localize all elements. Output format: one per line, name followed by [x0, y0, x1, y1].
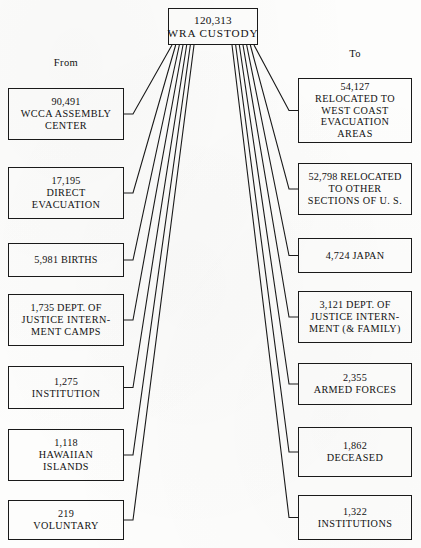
node-label-line: TO OTHER: [328, 183, 381, 195]
node-label-line: WEST COAST: [321, 105, 389, 117]
node-amount: 54,127: [340, 81, 369, 93]
node-amount: 90,491: [51, 96, 80, 108]
root-node: 120,313WRA CUSTODY: [168, 8, 258, 45]
node-label-line: ARMED FORCES: [314, 384, 397, 396]
connector-from: [124, 45, 172, 114]
node-label-line: JUSTICE INTERN-: [22, 314, 111, 326]
node-amount: 1,275: [54, 376, 78, 388]
connector-to: [243, 45, 298, 317]
connector-to: [254, 45, 298, 111]
node-amount: 219: [58, 508, 74, 520]
node-label-line: ISLANDS: [43, 461, 89, 473]
connector-from: [124, 45, 190, 455]
connector-from: [124, 45, 194, 520]
connector-from: [124, 45, 187, 388]
node-label-line: CENTER: [45, 120, 87, 132]
source-node: 5,981 BIRTHS: [8, 243, 124, 277]
node-amount: 1,862: [343, 440, 367, 452]
node-amount: 1,322: [343, 506, 367, 518]
node-amount: 5,981 BIRTHS: [34, 254, 98, 266]
diagram-page: 120,313WRA CUSTODYFromTo90,491WCCA ASSEM…: [0, 0, 421, 548]
connector-from: [124, 45, 183, 320]
node-amount: 52,798 RELOCATED: [308, 171, 401, 183]
node-label-line: HAWAIIAN: [39, 449, 93, 461]
node-amount: 2,355: [343, 372, 367, 384]
source-node: 1,275INSTITUTION: [8, 366, 124, 409]
source-node: 219VOLUNTARY: [8, 500, 124, 540]
connector-to: [239, 45, 298, 384]
node-label-line: DIRECT: [46, 187, 85, 199]
node-label-line: EVACUATION: [321, 116, 389, 128]
node-label-line: MENT (& FAMILY): [309, 323, 401, 335]
node-amount: 4,724 JAPAN: [326, 250, 384, 262]
node-amount: 1,118: [54, 437, 78, 449]
node-label-line: RELOCATED TO: [315, 93, 395, 105]
node-amount: 120,313: [194, 14, 232, 27]
destination-node: 3,121 DEPT. OFJUSTICE INTERN-MENT (& FAM…: [298, 291, 412, 343]
node-label-line: INSTITUTIONS: [318, 518, 392, 530]
source-node: 1,735 DEPT. OFJUSTICE INTERN-MENT CAMPS: [8, 294, 124, 346]
source-node: 1,118HAWAIIANISLANDS: [8, 429, 124, 481]
node-label-line: AREAS: [337, 128, 372, 140]
destination-node: 54,127RELOCATED TOWEST COASTEVACUATIONAR…: [298, 78, 412, 143]
destination-node: 1,322INSTITUTIONS: [298, 495, 412, 540]
node-amount: 1,735 DEPT. OF: [30, 302, 101, 314]
node-label-line: EVACUATION: [32, 199, 100, 211]
node-label-line: WCCA ASSEMBLY: [21, 108, 112, 120]
node-label-line: MENT CAMPS: [31, 326, 101, 338]
destination-node: 52,798 RELOCATEDTO OTHERSECTIONS OF U. S…: [298, 163, 412, 215]
node-label-line: DECEASED: [327, 452, 383, 464]
source-node: 90,491WCCA ASSEMBLYCENTER: [8, 88, 124, 140]
node-label-line: SECTIONS OF U. S.: [308, 195, 402, 207]
node-amount: 3,121 DEPT. OF: [319, 299, 390, 311]
connector-from: [124, 45, 176, 193]
destination-node: 4,724 JAPAN: [298, 238, 412, 273]
node-amount: 17,195: [51, 175, 80, 187]
to-column-heading: To: [298, 48, 412, 59]
node-label-line: VOLUNTARY: [33, 520, 99, 532]
destination-node: 1,862DECEASED: [298, 427, 412, 477]
from-column-heading: From: [8, 57, 124, 68]
node-label-line: JUSTICE INTERN-: [311, 311, 400, 323]
source-node: 17,195DIRECTEVACUATION: [8, 167, 124, 219]
node-label-line: INSTITUTION: [32, 388, 100, 400]
node-label-line: WRA CUSTODY: [168, 27, 259, 40]
destination-node: 2,355ARMED FORCES: [298, 363, 412, 405]
